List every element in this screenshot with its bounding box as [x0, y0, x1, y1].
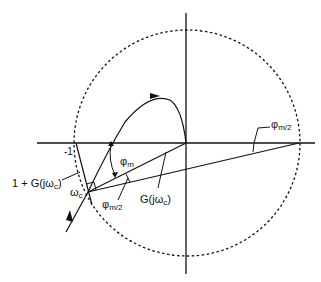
nyquist-diagram: -1 1 + G(jωc) ωc φm φm/2 φm/2 G(jωc): [0, 0, 321, 282]
arrow-icon: [66, 210, 73, 222]
one-plus-g-label: 1 + G(jωc): [12, 177, 62, 191]
phi-m2-right-leader: [254, 127, 270, 143]
omega-c-label: ωc: [70, 186, 83, 200]
phi-m2-right-label: φm/2: [271, 118, 292, 132]
g-label: G(jωc): [140, 193, 171, 207]
phi-m-label: φm: [120, 155, 134, 169]
g-vector: [88, 143, 186, 192]
minus-one-label: -1: [64, 146, 73, 157]
phi-m2-right-tick: [253, 143, 254, 152]
phi-m2-label: φm/2: [102, 198, 123, 212]
g-leader: [158, 152, 166, 188]
phi-m2-leader: [118, 178, 128, 200]
one-plus-g-leader: [62, 172, 80, 180]
phi-m-arc: [110, 145, 115, 175]
chord-line: [88, 143, 299, 192]
